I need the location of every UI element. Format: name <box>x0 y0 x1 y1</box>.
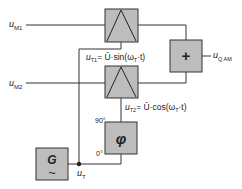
ut2-equation: uT2= Û·cos(ωT·t) <box>125 102 187 113</box>
ut1-equation: uT1= Û·sin(ωT·t) <box>86 52 145 63</box>
plus-icon: + <box>182 47 191 64</box>
port-90-label: 90° <box>95 117 106 124</box>
phase-shifter-block: φ 90° 0° <box>95 117 137 157</box>
phi-icon: φ <box>116 130 127 147</box>
ut-label: uT <box>77 168 86 180</box>
output-uqam-label: uQ AM <box>213 50 232 62</box>
quadrature-am-modulator-diagram: + φ 90° 0° G ~ uM1 uM2 uQ AM uT1= Û·sin(… <box>0 0 242 189</box>
junction-dot <box>77 162 81 166</box>
multiplier-top-block <box>105 9 138 42</box>
multiplier-bottom-block <box>105 66 138 98</box>
port-0-label: 0° <box>96 150 103 157</box>
sine-wave-icon: ~ <box>48 165 56 180</box>
generator-block: G ~ <box>36 148 68 180</box>
input-um2-label: uM2 <box>9 78 23 90</box>
input-um1-label: uM1 <box>9 19 23 31</box>
summer-block: + <box>170 40 202 72</box>
wire-bottom-to-sum <box>138 72 186 83</box>
wire-top-to-sum <box>138 25 186 40</box>
